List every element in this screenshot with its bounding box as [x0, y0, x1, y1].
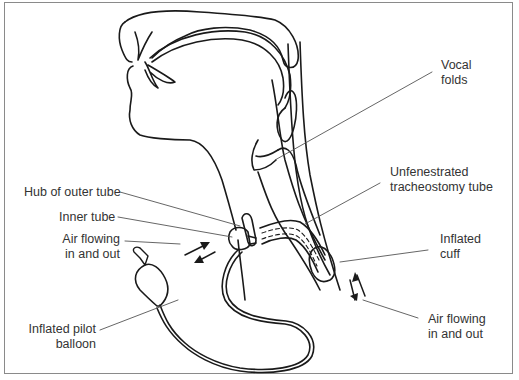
leader-air-left — [125, 241, 180, 244]
posterior-wall-2 — [272, 80, 325, 260]
label-unfenestrated-tube: Unfenestrated tracheostomy tube — [390, 165, 493, 195]
label-air-left-line1: Air flowing — [56, 232, 120, 247]
label-cuff-line2: cuff — [440, 247, 481, 262]
leader-air-right — [363, 300, 418, 318]
label-cuff-line1: Inflated — [440, 232, 481, 247]
pilot-valve — [133, 247, 148, 265]
label-air-left-line2: in and out — [56, 247, 120, 262]
label-pilot-line2: balloon — [26, 337, 96, 352]
label-air-right-line1: Air flowing — [428, 312, 486, 327]
lip-upper — [135, 32, 152, 60]
label-pilot-line1: Inflated pilot — [26, 322, 96, 337]
label-vocal-folds-line2: folds — [441, 73, 472, 88]
label-pilot-balloon: Inflated pilot balloon — [26, 322, 96, 352]
label-vocal-folds-line1: Vocal — [441, 58, 472, 73]
pilot-balloon — [135, 264, 167, 306]
nose-face — [119, 22, 132, 62]
tube-outer-top — [260, 220, 325, 255]
label-air-right-line2: in and out — [428, 327, 486, 342]
label-vocal-folds: Vocal folds — [441, 58, 472, 88]
label-unfenestrated-line2: tracheostomy tube — [390, 180, 493, 195]
label-air-flow-left: Air flowing in and out — [56, 232, 120, 262]
label-inflated-cuff: Inflated cuff — [440, 232, 481, 262]
leader-inner-tube — [118, 217, 232, 237]
lip-lower — [127, 66, 236, 230]
larynx-front — [252, 140, 276, 170]
leader-vocal-folds — [275, 72, 432, 160]
vocal-fold — [256, 150, 278, 157]
posterior-wall-3 — [300, 42, 340, 290]
leader-cuff — [340, 250, 428, 262]
palate-lower — [152, 39, 284, 105]
label-inner-tube: Inner tube — [59, 210, 115, 225]
label-unfenestrated-line1: Unfenestrated — [390, 165, 493, 180]
label-air-flow-right: Air flowing in and out — [428, 312, 486, 342]
pilot-line — [160, 250, 310, 369]
label-hub-outer-tube: Hub of outer tube — [24, 185, 121, 200]
pilot-line-2 — [157, 252, 314, 372]
tongue — [145, 62, 175, 88]
